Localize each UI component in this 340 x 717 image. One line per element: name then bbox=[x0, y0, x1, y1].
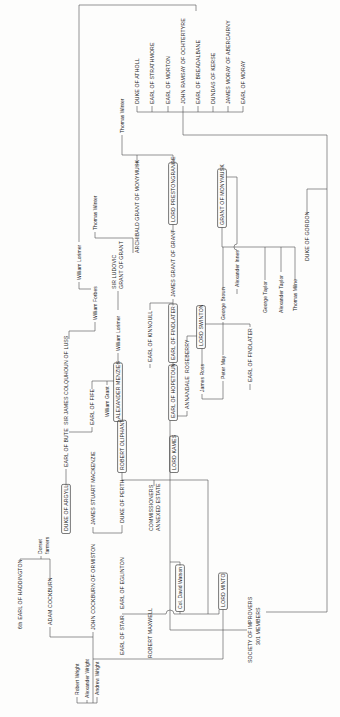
james-stuart-mackenzie-label: JAMES STUART MACKENZIE bbox=[90, 451, 96, 525]
alexander-taylor-label: Alexander Taylor bbox=[278, 275, 284, 313]
earl-of-findlater-2-label: EARL OF FINDLATER bbox=[247, 328, 253, 382]
connector-line-37 bbox=[177, 411, 187, 416]
grant-of-monymusk-label: GRANT OF MONYMUSK bbox=[219, 164, 225, 225]
earl-of-stair-label: EARL OF STAIR bbox=[119, 615, 125, 655]
william-forbes-label: William Forbes bbox=[92, 286, 98, 320]
earl-of-bute-label: EARL OF BUTE bbox=[63, 428, 69, 467]
duke-of-perth-label: DUKE OF PERTH bbox=[119, 479, 125, 523]
lord-minto-label: LORD MINTO bbox=[220, 573, 226, 607]
connector-line-49 bbox=[226, 177, 237, 251]
sir-ludovic-grant-of-grant-label: SIR LUDOVIC bbox=[111, 254, 117, 289]
thomas-winter-1-label: Thomas Winter bbox=[119, 98, 125, 133]
john-ramsay-of-ochtertyre-label: JOHN RAMSAY OF OCHTERTYRE bbox=[180, 18, 186, 104]
james-grant-of-grant-label: JAMES GRANT OF GRANT bbox=[170, 229, 176, 297]
peter-may-label: Peter May bbox=[220, 355, 226, 379]
earl-of-moray-label: EARL OF MORAY bbox=[240, 60, 246, 104]
james-ross-label: James Ross bbox=[199, 364, 205, 392]
connector-line-2 bbox=[50, 627, 93, 637]
robert-maxwell-label: ROBERT MAXWELL bbox=[147, 608, 153, 658]
alexander-menzies-label: ALEXANDER MENZIES bbox=[115, 361, 121, 419]
lord-swinton-label: LORD SWINTON bbox=[198, 304, 204, 346]
alexander-wright-label: Alexander Wright bbox=[84, 658, 90, 698]
connector-line-51 bbox=[205, 324, 250, 327]
commissioners-annexed-estate-label: COMMISSIONERS bbox=[148, 484, 154, 531]
haddington-label: 6th EARL OF HADDINGTON bbox=[17, 559, 23, 629]
earl-of-hopetoun-label: EARL OF HOPETOUN bbox=[170, 363, 176, 418]
sir-ludovic-grant-of-grant-label-line2: GRANT OF GRANT bbox=[118, 240, 124, 289]
connector-line-20 bbox=[69, 427, 92, 432]
william-lorimer-1-label: William Lorimer bbox=[76, 245, 82, 280]
scanned-diagram-page: 6th EARL OF HADDINGTONDorsetfarmersADAM … bbox=[0, 0, 340, 717]
lord-kames-label: LORD KAMES bbox=[171, 434, 177, 470]
duke-of-gordon-label: DUKE OF GORDON bbox=[304, 211, 310, 261]
society-of-improvers-label: SOCIETY OF IMPROVERS bbox=[247, 596, 253, 663]
connector-line-25 bbox=[69, 322, 95, 339]
connector-line-15 bbox=[122, 480, 208, 614]
connector-line-27 bbox=[95, 232, 133, 253]
rotated-diagram-stage: 6th EARL OF HADDINGTONDorsetfarmersADAM … bbox=[0, 0, 340, 717]
thomas-milne-label: Thomas Milne bbox=[292, 279, 298, 311]
robert-oliphant-label: ROBERT OLIPHANT bbox=[119, 419, 125, 470]
earl-of-fife-label: EARL OF FIFE bbox=[89, 388, 95, 425]
archibald-grant-of-monymusk-label: ARCHIBALD GRANT OF MONYMUSK bbox=[134, 160, 140, 253]
dorset-farmers-label-line2: farmers bbox=[44, 536, 50, 554]
robert-wright-label: Robert Wright bbox=[74, 663, 80, 695]
roseberry-label: ROSEBERRY bbox=[184, 339, 190, 373]
duke-of-argyll-label: DUKE OF ARGYLL bbox=[63, 485, 69, 531]
annandale-label: ANNANDALE bbox=[184, 376, 190, 409]
earl-of-findlater-1-label: EARL OF FINDLATER bbox=[170, 306, 176, 360]
connector-line-0 bbox=[20, 559, 50, 581]
earl-of-kinnoull-label: EARL OF KINNOULL bbox=[147, 311, 153, 362]
connector-line-26 bbox=[79, 282, 91, 289]
col-david-watson-label: Col. David Watson bbox=[177, 567, 183, 609]
alexander-innes-label: Alexander Innes bbox=[234, 250, 240, 287]
earl-of-breadalbane-label: EARL OF BREADALBANE bbox=[195, 40, 201, 104]
william-grant-label: William Grant bbox=[104, 386, 110, 417]
george-brown-label: George Brown bbox=[220, 287, 226, 320]
connector-line-40 bbox=[202, 381, 223, 399]
andrew-wright-label: Andrew Wright bbox=[94, 661, 100, 695]
dundas-of-kerse-label: DUNDAS OF KERSE bbox=[210, 52, 216, 104]
connector-line-12 bbox=[122, 610, 219, 615]
sir-james-colquhoun-of-luss-label: SIR JAMES COLQUHOUN OF LUSS bbox=[63, 335, 69, 425]
connector-line-53 bbox=[183, 112, 327, 612]
john-cockburn-of-ormiston-label: JOHN COCKBURN OF ORMISTON bbox=[90, 544, 96, 630]
lord-prestongrange-label: LORD PRESTONGRANGE bbox=[170, 156, 176, 222]
thomas-winter-2-label: Thomas Winter bbox=[92, 195, 98, 230]
commissioners-annexed-estate-label-line2: ANNEXED ESTATE bbox=[155, 483, 161, 531]
william-lorimer-2-label: William Lorimer bbox=[115, 316, 121, 351]
earl-of-morton-label: EARL OF MORTON bbox=[165, 56, 171, 104]
dorset-farmers-label: Dorset bbox=[37, 538, 43, 554]
george-taylor-label: George Taylor bbox=[262, 281, 268, 313]
society-of-improvers-label-line2: 301 MEMBERS bbox=[255, 607, 261, 645]
james-moray-of-abercairny-label: JAMES MORAY OF ABERCAIRNY bbox=[225, 20, 231, 104]
earl-of-strathmore-label: EARL OF STRATHMORE bbox=[149, 42, 155, 104]
connector-line-21 bbox=[92, 381, 114, 389]
connector-line-18 bbox=[93, 525, 122, 533]
connector-line-52 bbox=[307, 189, 327, 215]
connector-line-31 bbox=[122, 155, 173, 164]
duke-of-atholl-label: DUKE OF ATHOLL bbox=[134, 58, 140, 104]
adam-cockburn-label: ADAM COCKBURN bbox=[47, 577, 53, 625]
improvers-network-diagram: 6th EARL OF HADDINGTONDorsetfarmersADAM … bbox=[0, 0, 340, 717]
earl-of-eglinton-label: EARL OF EGLINTON bbox=[119, 557, 125, 609]
